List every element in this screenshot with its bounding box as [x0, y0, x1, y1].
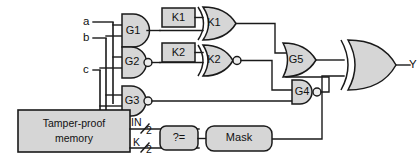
gate-input-taps [100, 25, 122, 106]
gate-G1-label: G1 [126, 24, 141, 36]
key-box-K1[interactable]: K1 [162, 8, 203, 27]
gate-G1[interactable]: G1 [122, 14, 160, 47]
gate-output-xor[interactable] [341, 40, 410, 90]
gate-G2-label: G2 [125, 55, 140, 67]
gate-K1-label: K1 [207, 16, 220, 28]
circuit-diagram-canvas: G1 G2 G3 K1 K2 [0, 0, 420, 167]
comparator-label: ?= [173, 131, 186, 143]
tamper-proof-memory[interactable]: Tamper-proof memory [18, 110, 130, 152]
gate-G3-label: G3 [125, 94, 140, 106]
gate-K2-label: K2 [207, 53, 220, 65]
key-box-K1-label: K1 [172, 11, 185, 23]
key-box-K2-label: K2 [172, 46, 185, 58]
mask-block[interactable]: Mask [206, 126, 272, 151]
memory-label-line2: memory [55, 132, 94, 144]
gate-G5-label: G5 [289, 53, 304, 65]
input-wires [93, 22, 113, 70]
key-box-K2[interactable]: K2 [162, 43, 203, 62]
gate-G5[interactable]: G5 [283, 43, 344, 77]
gate-G2[interactable]: G2 [122, 47, 160, 78]
memory-label-line1: Tamper-proof [43, 117, 106, 129]
circuit-svg: G1 G2 G3 K1 K2 [0, 0, 420, 167]
gate-G3[interactable]: G3 [122, 86, 292, 116]
gate-G4-label: G4 [295, 85, 310, 97]
mask-label: Mask [226, 131, 253, 143]
